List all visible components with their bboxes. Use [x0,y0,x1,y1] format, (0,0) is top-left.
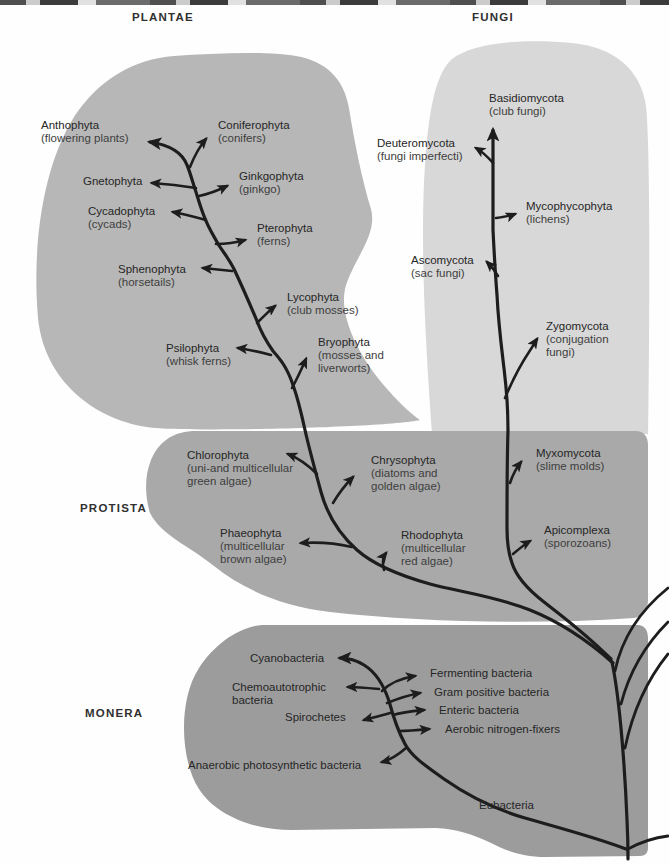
phylum-common-name: (club fungi) [489,105,564,118]
phylum-label-chrysophyta: Chrysophyta(diatoms and golden algae) [371,454,441,493]
phylum-label-mycophycophyta: Mycophycophyta(lichens) [526,200,612,226]
phylum-common-name: (conjugation fungi) [546,333,609,359]
phylum-label-chlorophyta: Chlorophyta(uni-and multicellular green … [187,449,293,488]
phylum-name: Anthophyta [41,119,129,132]
phylum-label-deuteromycota: Deuteromycota(fungi imperfecti) [377,137,463,163]
phylum-common-name: (sporozoans) [544,537,611,550]
group-name: Enteric bacteria [439,704,519,717]
phylum-label-apicomplexa: Apicomplexa(sporozoans) [544,524,611,550]
phylum-common-name: (lichens) [526,213,612,226]
phylum-label-pterophyta: Pterophyta(ferns) [257,222,313,248]
phylum-label-phaeophyta: Phaeophyta(multicellular brown algae) [220,527,286,566]
phylum-name: Ginkgophyta [239,170,304,183]
group-label-spirochetes: Spirochetes [285,711,346,724]
phylum-label-psilophyta: Psilophyta(whisk ferns) [166,342,231,368]
phylum-name: Psilophyta [166,342,231,355]
group-label-aerobic-nitrogen-fixers: Aerobic nitrogen-fixers [445,723,560,736]
phylum-common-name: (multicellular brown algae) [220,540,286,566]
group-label-chemoautotrophic-bacteria: Chemoautotrophic bacteria [232,681,326,707]
phylum-name: Rhodophyta [401,529,466,542]
phylum-label-gnetophyta: Gnetophyta [83,175,142,188]
phylum-name: Chrysophyta [371,454,441,467]
figure-canvas: PLANTAE FUNGI PROTISTA MONERA Anthophyta… [0,0,669,865]
phylum-common-name: (cycads) [88,218,155,231]
phylum-label-zygomycota: Zygomycota(conjugation fungi) [546,320,609,359]
phylum-label-sphenophyta: Sphenophyta(horsetails) [118,263,186,289]
group-name: Gram positive bacteria [434,686,549,699]
phylum-name: Pterophyta [257,222,313,235]
kingdom-header-plantae: PLANTAE [132,11,194,23]
phylum-name: Bryophyta [318,336,384,349]
phylum-label-anthophyta: Anthophyta(flowering plants) [41,119,129,145]
group-label-enteric-bacteria: Enteric bacteria [439,704,519,717]
phylum-name: Chlorophyta [187,449,293,462]
phylum-name: Coniferophyta [218,119,290,132]
phylum-common-name: (whisk ferns) [166,355,231,368]
phylum-label-myxomycota: Myxomycota(slime molds) [536,447,604,473]
kingdom-header-monera: MONERA [85,707,143,719]
phylum-label-cycadophyta: Cycadophyta(cycads) [88,205,155,231]
phylum-name: Lycophyta [287,291,359,304]
phylum-name: Sphenophyta [118,263,186,276]
group-label-fermenting-bacteria: Fermenting bacteria [430,667,532,680]
phylum-common-name: (club mosses) [287,304,359,317]
group-label-cyanobacteria: Cyanobacteria [250,652,324,665]
phylum-name: Gnetophyta [83,175,142,188]
group-name: Fermenting bacteria [430,667,532,680]
phylum-common-name: (diatoms and golden algae) [371,467,441,493]
phylum-name: Deuteromycota [377,137,463,150]
group-label-anaerobic-photosynthetic-bacteria: Anaerobic photosynthetic bacteria [188,759,361,772]
group-label-gram-positive-bacteria: Gram positive bacteria [434,686,549,699]
phylum-label-rhodophyta: Rhodophyta(multicellular red algae) [401,529,466,568]
phylum-common-name: (ferns) [257,235,313,248]
group-name: Anaerobic photosynthetic bacteria [188,759,361,772]
phylum-common-name: (uni-and multicellular green algae) [187,462,293,488]
phylum-common-name: (fungi imperfecti) [377,150,463,163]
phylum-name: Myxomycota [536,447,604,460]
phylum-name: Cycadophyta [88,205,155,218]
group-name: Aerobic nitrogen-fixers [445,723,560,736]
phylum-label-ginkgophyta: Ginkgophyta(ginkgo) [239,170,304,196]
phylum-name: Phaeophyta [220,527,286,540]
phylum-common-name: (multicellular red algae) [401,542,466,568]
phylum-name: Apicomplexa [544,524,611,537]
group-name: Cyanobacteria [250,652,324,665]
phylum-name: Zygomycota [546,320,609,333]
group-label-eubacteria: Eubacteria [479,799,534,812]
phylum-common-name: (mosses and liverworts) [318,349,384,375]
kingdom-header-fungi: FUNGI [472,11,514,23]
group-name: Chemoautotrophic bacteria [232,681,326,707]
phylum-common-name: (conifers) [218,132,290,145]
page-scan-artifact [0,0,669,5]
group-name: Eubacteria [479,799,534,812]
phylum-name: Ascomycota [411,254,474,267]
phylum-name: Mycophycophyta [526,200,612,213]
phylum-label-ascomycota: Ascomycota(sac fungi) [411,254,474,280]
phylum-common-name: (sac fungi) [411,267,474,280]
phylum-common-name: (slime molds) [536,460,604,473]
phylum-label-coniferophyta: Coniferophyta(conifers) [218,119,290,145]
kingdom-header-protista: PROTISTA [80,502,147,514]
phylum-common-name: (ginkgo) [239,183,304,196]
phylum-common-name: (horsetails) [118,276,186,289]
group-name: Spirochetes [285,711,346,724]
phylum-label-basidiomycota: Basidiomycota(club fungi) [489,92,564,118]
phylum-label-bryophyta: Bryophyta(mosses and liverworts) [318,336,384,375]
phylum-label-lycophyta: Lycophyta(club mosses) [287,291,359,317]
phylum-common-name: (flowering plants) [41,132,129,145]
phylum-name: Basidiomycota [489,92,564,105]
